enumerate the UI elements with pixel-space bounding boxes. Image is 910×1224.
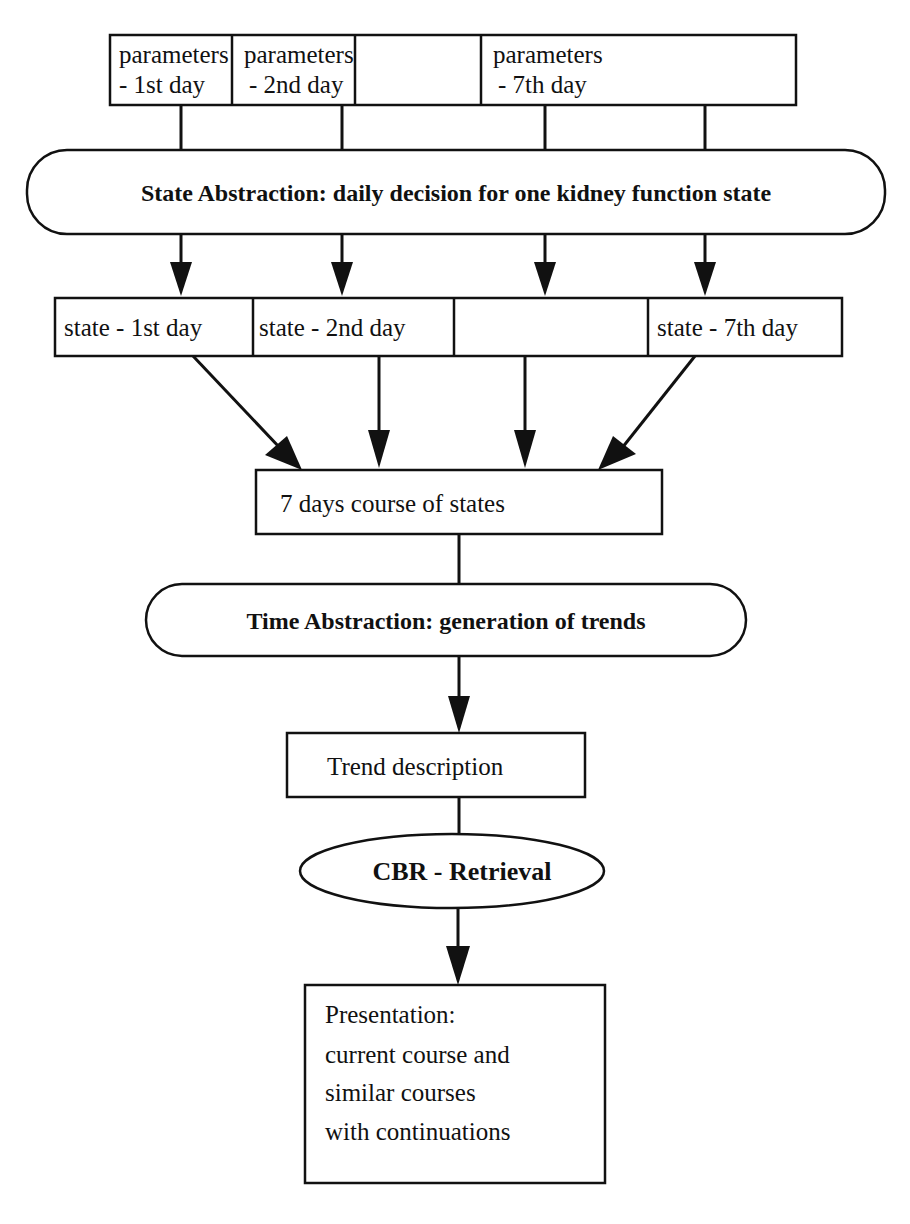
- arrow-head-icon: [514, 430, 536, 468]
- trend-description-label: Trend description: [327, 753, 504, 780]
- arrow-head-icon: [534, 262, 556, 296]
- presentation-node: Presentation: current course and similar…: [305, 985, 605, 1183]
- arrows-states-to-course: [193, 356, 695, 470]
- arrow-head-icon: [448, 696, 470, 733]
- trend-description-node: Trend description: [287, 733, 585, 797]
- time-abstraction-label: Time Abstraction: generation of trends: [246, 608, 645, 634]
- arrow-head-icon: [694, 262, 716, 296]
- param-box-7-line2: - 7th day: [498, 71, 587, 98]
- arrow-head-icon: [598, 436, 636, 470]
- param-box-1-line1: parameters: [119, 41, 229, 68]
- connectors-params-to-abstraction: [181, 105, 705, 150]
- arrow-head-icon: [368, 430, 390, 468]
- arrow-head-icon: [170, 262, 192, 296]
- state-box-2: state - 2nd day: [259, 314, 406, 341]
- course-of-states-node: 7 days course of states: [256, 470, 662, 534]
- course-of-states-label: 7 days course of states: [280, 490, 505, 517]
- arrow-head-icon: [265, 436, 302, 470]
- param-box-2-line1: parameters: [244, 41, 354, 68]
- presentation-line-3: similar courses: [325, 1079, 476, 1106]
- presentation-line-1: Presentation:: [325, 1001, 456, 1028]
- states-row: state - 1st day state - 2nd day state - …: [55, 298, 842, 356]
- arrow-head-icon: [446, 946, 470, 985]
- state-abstraction-node: State Abstraction: daily decision for on…: [27, 150, 885, 234]
- state-box-1: state - 1st day: [64, 314, 203, 341]
- cbr-retrieval-label: CBR - Retrieval: [372, 857, 551, 886]
- flow-diagram: parameters - 1st day parameters - 2nd da…: [0, 0, 910, 1224]
- presentation-line-2: current course and: [325, 1041, 510, 1068]
- param-box-7-line1: parameters: [493, 41, 603, 68]
- arrows-abstraction-to-states: [170, 234, 716, 296]
- time-abstraction-node: Time Abstraction: generation of trends: [146, 584, 746, 656]
- cbr-retrieval-node: CBR - Retrieval: [300, 834, 604, 908]
- param-box-2-line2: - 2nd day: [249, 71, 344, 98]
- parameters-row: parameters - 1st day parameters - 2nd da…: [110, 35, 796, 105]
- arrow-head-icon: [331, 262, 353, 296]
- state-abstraction-label: State Abstraction: daily decision for on…: [141, 180, 772, 206]
- param-box-1-line2: - 1st day: [119, 71, 206, 98]
- state-box-7: state - 7th day: [657, 314, 798, 341]
- presentation-line-4: with continuations: [325, 1118, 510, 1145]
